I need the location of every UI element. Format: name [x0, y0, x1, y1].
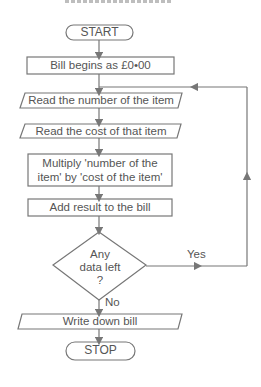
read-cost-label: Read the cost of that item	[20, 125, 182, 138]
yes-edge-label: Yes	[187, 248, 206, 260]
start-label: START	[66, 26, 133, 39]
decision-label-line2: data left	[60, 261, 140, 274]
decision-label-line1: Any	[60, 248, 140, 261]
write-label: Write down bill	[18, 315, 182, 328]
init-label: Bill begins as £0•00	[27, 59, 174, 72]
stop-label: STOP	[66, 344, 135, 357]
multiply-label-line2: item' by 'cost of the item'	[28, 171, 172, 184]
decision-label-line3: ?	[60, 274, 140, 287]
multiply-label-line1: Multiply 'number of the	[28, 157, 172, 170]
add-label: Add result to the bill	[28, 201, 172, 214]
no-edge-label: No	[105, 296, 120, 308]
read-number-label: Read the number of the item	[20, 94, 182, 107]
